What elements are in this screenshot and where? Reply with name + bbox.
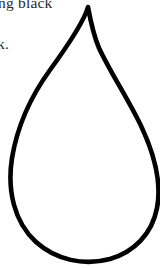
- scanned-page: ng black k.: [0, 0, 160, 268]
- teardrop-figure: [0, 0, 160, 268]
- teardrop-outline-path: [10, 7, 158, 262]
